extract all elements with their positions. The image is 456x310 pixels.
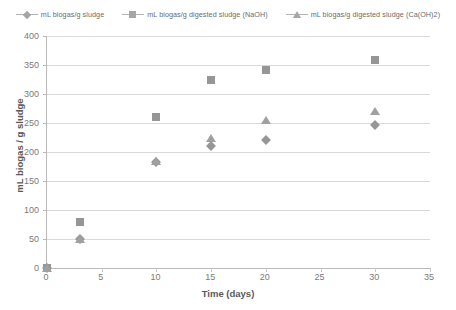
y-axis-tick	[43, 181, 47, 182]
x-axis-tick-label: 15	[205, 272, 215, 282]
y-axis-tick	[43, 152, 47, 153]
x-axis-title: Time (days)	[0, 288, 456, 299]
x-axis-tick-label: 20	[260, 272, 270, 282]
y-axis-tick	[43, 239, 47, 240]
x-axis-tick-label: 25	[315, 272, 325, 282]
gridline-horizontal	[47, 65, 430, 66]
data-point	[371, 56, 379, 64]
data-point	[261, 116, 271, 124]
gridline-horizontal	[47, 94, 430, 95]
x-axis-tick	[375, 268, 376, 272]
data-point	[42, 264, 52, 272]
y-axis-tick	[43, 36, 47, 37]
data-point	[207, 76, 215, 84]
data-point	[370, 107, 380, 115]
x-axis-tick	[156, 268, 157, 272]
data-point	[262, 66, 270, 74]
y-axis-tick	[43, 94, 47, 95]
data-point	[206, 134, 216, 142]
x-axis-tick-label: 10	[150, 272, 160, 282]
data-point	[76, 218, 84, 226]
x-axis-tick	[430, 268, 431, 272]
x-axis-tick	[102, 268, 103, 272]
x-axis-tick-label: 30	[369, 272, 379, 282]
biogas-yield-chart: mL biogas/g sludge mL biogas/g digested …	[0, 0, 456, 310]
gridline-horizontal	[47, 36, 430, 37]
data-point	[261, 135, 271, 145]
x-axis-tick	[266, 268, 267, 272]
x-axis-tick-label: 35	[424, 272, 434, 282]
data-point	[75, 235, 85, 243]
x-axis-tick-label: 0	[43, 272, 48, 282]
y-axis-tick	[43, 123, 47, 124]
x-axis-tick-label: 5	[98, 272, 103, 282]
x-axis-tick	[321, 268, 322, 272]
x-axis-tick	[211, 268, 212, 272]
gridline-horizontal	[47, 210, 430, 211]
gridline-horizontal	[47, 239, 430, 240]
data-point	[370, 120, 380, 130]
y-axis-title: mL biogas / g sludge	[14, 46, 25, 246]
gridline-horizontal	[47, 152, 430, 153]
y-axis-tick	[43, 210, 47, 211]
data-point	[152, 113, 160, 121]
y-axis-tick	[43, 65, 47, 66]
data-point	[151, 157, 161, 165]
data-point	[206, 141, 216, 151]
gridline-horizontal	[47, 181, 430, 182]
plot-area	[46, 36, 430, 269]
